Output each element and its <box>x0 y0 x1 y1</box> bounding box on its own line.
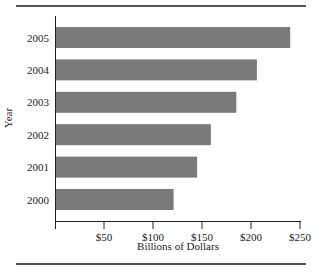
category-label: 2001 <box>27 161 49 173</box>
category-label: 2003 <box>27 96 50 108</box>
category-label: 2000 <box>27 194 50 206</box>
bar-2001 <box>56 157 197 178</box>
bar-chart: 200520042003200220012000 $50$100$150$200… <box>0 0 321 272</box>
y-axis-title: Year <box>2 108 14 129</box>
x-tick-label: $50 <box>96 231 113 243</box>
x-tick-label: $200 <box>240 231 263 243</box>
bar-2003 <box>56 92 236 113</box>
bar-2005 <box>56 27 290 48</box>
category-labels: 200520042003200220012000 <box>27 32 50 206</box>
x-axis-title: Billions of Dollars <box>137 240 219 252</box>
x-tick-label: $250 <box>289 231 312 243</box>
bar-2000 <box>56 189 174 210</box>
category-label: 2004 <box>27 64 50 76</box>
bar-2002 <box>56 124 211 145</box>
bars-group <box>56 27 290 210</box>
category-label: 2002 <box>27 129 49 141</box>
category-label: 2005 <box>27 32 50 44</box>
bar-2004 <box>56 59 257 80</box>
